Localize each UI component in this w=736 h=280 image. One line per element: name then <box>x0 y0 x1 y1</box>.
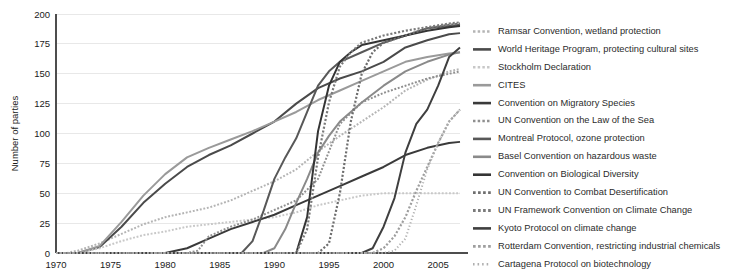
legend-label: Convention on Biological Diversity <box>498 169 639 179</box>
chart-legend: Ramsar Convention, wetland protectionWor… <box>473 26 721 269</box>
legend-item[interactable]: Stockholm Declaration <box>473 62 591 72</box>
y-axis-tick-labels: 0255075100125150175200 <box>34 9 50 259</box>
legend-label: UN Convention on the Law of the Sea <box>498 115 655 125</box>
legend-item[interactable]: CITES <box>473 80 525 90</box>
series-lines <box>56 22 460 253</box>
x-tick-label: 1970 <box>45 259 66 270</box>
legend-label: Stockholm Declaration <box>498 62 591 72</box>
x-tick-label: 1990 <box>264 259 285 270</box>
y-tick-label: 50 <box>39 188 50 199</box>
y-tick-label: 0 <box>45 248 50 259</box>
legend-item[interactable]: Kyoto Protocol on climate change <box>473 223 637 233</box>
legend-label: Convention on Migratory Species <box>498 98 635 108</box>
x-tick-label: 1975 <box>100 259 121 270</box>
legend-item[interactable]: Basel Convention on hazardous waste <box>473 151 657 161</box>
gridlines <box>56 14 460 223</box>
legend-label: UN Convention to Combat Desertification <box>498 187 668 197</box>
x-axis-tick-labels: 19701975198019851990199520002005 <box>45 259 448 270</box>
legend-label: CITES <box>498 80 525 90</box>
legend-item[interactable]: Cartagena Protocol on biotechnology <box>473 259 651 269</box>
legend-item[interactable]: UN Framework Convention on Climate Chang… <box>473 205 692 215</box>
legend-label: Basel Convention on hazardous waste <box>498 151 657 161</box>
y-axis-title: Number of parties <box>9 96 20 172</box>
legend-item[interactable]: World Heritage Program, protecting cultu… <box>473 44 699 54</box>
y-tick-label: 150 <box>34 68 50 79</box>
x-tick-label: 1980 <box>155 259 176 270</box>
legend-item[interactable]: UN Convention on the Law of the Sea <box>473 115 655 125</box>
y-tick-label: 175 <box>34 38 50 49</box>
x-tick-label: 2005 <box>428 259 449 270</box>
x-tick-label: 1995 <box>318 259 339 270</box>
legend-item[interactable]: Montreal Protocol, ozone protection <box>473 133 645 143</box>
legend-label: UN Framework Convention on Climate Chang… <box>498 205 692 215</box>
x-tick-label: 1985 <box>209 259 230 270</box>
series-line-4 <box>56 142 460 253</box>
y-tick-label: 125 <box>34 98 50 109</box>
legend-item[interactable]: Ramsar Convention, wetland protection <box>473 26 661 36</box>
y-tick-label: 200 <box>34 9 50 20</box>
legend-item[interactable]: UN Convention to Combat Desertification <box>473 187 668 197</box>
legend-label: Rotterdam Convention, restricting indust… <box>498 241 721 251</box>
chart-figure: 0255075100125150175200 19701975198019851… <box>0 0 736 280</box>
y-tick-label: 25 <box>39 218 50 229</box>
series-line-11 <box>56 47 460 253</box>
legend-label: Cartagena Protocol on biotechnology <box>498 259 651 269</box>
y-tick-label: 75 <box>39 158 50 169</box>
x-tick-label: 2000 <box>373 259 394 270</box>
y-axis-title-text: Number of parties <box>9 96 20 172</box>
legend-label: Ramsar Convention, wetland protection <box>498 26 661 36</box>
y-tick-label: 100 <box>34 128 50 139</box>
legend-item[interactable]: Convention on Biological Diversity <box>473 169 639 179</box>
legend-label: Montreal Protocol, ozone protection <box>498 133 645 143</box>
line-chart: 0255075100125150175200 19701975198019851… <box>0 0 736 280</box>
legend-label: World Heritage Program, protecting cultu… <box>498 44 699 54</box>
legend-label: Kyoto Protocol on climate change <box>498 223 637 233</box>
legend-item[interactable]: Rotterdam Convention, restricting indust… <box>473 241 721 251</box>
legend-item[interactable]: Convention on Migratory Species <box>473 98 635 108</box>
